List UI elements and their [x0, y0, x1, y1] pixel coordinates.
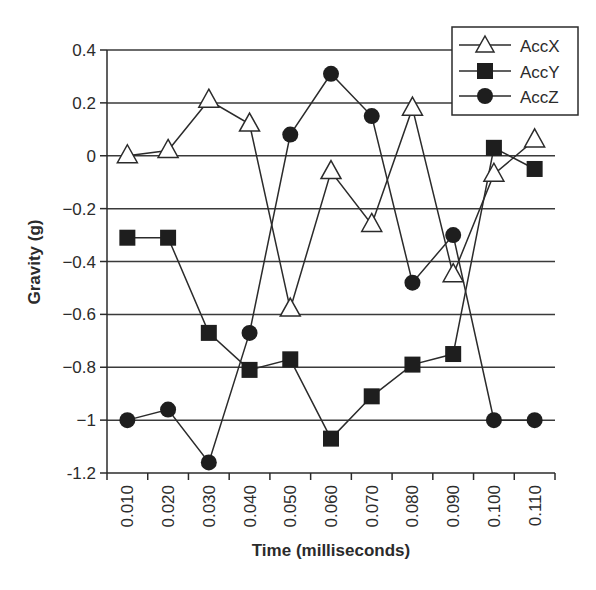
data-point — [402, 97, 422, 115]
data-point — [240, 113, 260, 131]
x-axis-title: Time (milliseconds) — [252, 541, 410, 560]
data-point — [323, 431, 339, 447]
data-point — [321, 161, 341, 179]
data-point — [527, 161, 543, 177]
data-point — [484, 163, 504, 181]
data-point — [199, 89, 219, 107]
line-chart: 0.40.20−0.2−0.4−0.6−0.8−1-1.2 0.0100.020… — [0, 0, 596, 590]
data-point — [364, 108, 380, 124]
data-point — [445, 227, 461, 243]
y-tick-label: −0.2 — [62, 200, 96, 219]
data-point — [242, 362, 258, 378]
data-point — [160, 402, 176, 418]
y-tick-label: -1.2 — [67, 464, 96, 483]
x-tick-label: 0.080 — [403, 485, 422, 528]
data-point — [242, 325, 258, 341]
series-line-accz — [127, 74, 534, 463]
data-point — [445, 346, 461, 362]
data-point — [323, 66, 339, 82]
data-point — [282, 127, 298, 143]
x-tick-label: 0.020 — [159, 485, 178, 528]
legend-label-accy: AccY — [520, 63, 560, 82]
y-tick-label: −0.4 — [62, 253, 96, 272]
y-tick-label: −0.8 — [62, 358, 96, 377]
x-axis: 0.0100.0200.0300.0400.0500.0600.0700.080… — [107, 473, 555, 528]
x-tick-label: 0.030 — [200, 485, 219, 528]
y-axis: 0.40.20−0.2−0.4−0.6−0.8−1-1.2 — [62, 41, 107, 483]
data-point — [527, 412, 543, 428]
series-line-accx — [127, 100, 534, 309]
data-point — [119, 412, 135, 428]
legend-label-accx: AccX — [520, 37, 560, 56]
data-point — [404, 275, 420, 291]
y-tick-label: −1 — [77, 411, 96, 430]
legend: AccX AccY AccZ — [452, 27, 578, 115]
x-tick-label: 0.040 — [241, 485, 260, 528]
x-tick-label: 0.070 — [363, 485, 382, 528]
data-point — [201, 454, 217, 470]
data-point — [525, 129, 545, 147]
y-tick-label: 0.4 — [72, 41, 96, 60]
x-tick-label: 0.090 — [444, 485, 463, 528]
data-point — [201, 325, 217, 341]
x-tick-label: 0.110 — [526, 485, 545, 526]
x-tick-label: 0.050 — [281, 485, 300, 528]
y-tick-label: 0.2 — [72, 94, 96, 113]
data-point — [282, 351, 298, 367]
legend-label-accz: AccZ — [520, 88, 559, 107]
series-lines — [127, 74, 534, 463]
data-point — [119, 230, 135, 246]
x-tick-label: 0.060 — [322, 485, 341, 528]
y-tick-label: −0.6 — [62, 305, 96, 324]
series-line-accy — [127, 148, 534, 439]
circle-marker-icon — [477, 88, 493, 104]
x-tick-label: 0.100 — [485, 485, 504, 528]
data-point — [364, 388, 380, 404]
data-point — [160, 230, 176, 246]
data-point — [117, 145, 137, 163]
data-point — [404, 357, 420, 373]
x-tick-label: 0.010 — [118, 485, 137, 528]
y-tick-label: 0 — [87, 147, 96, 166]
square-marker-icon — [477, 63, 493, 79]
y-axis-title: Gravity (g) — [25, 219, 44, 304]
data-point — [486, 412, 502, 428]
data-point — [486, 140, 502, 156]
data-point — [280, 298, 300, 316]
